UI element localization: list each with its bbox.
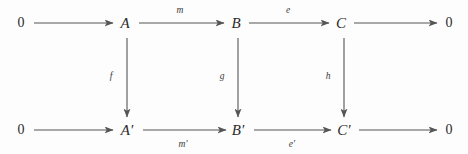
edge-label-m-prime: m′ [179, 140, 188, 150]
edge-label-f: f [110, 72, 113, 82]
arrow-lines-group [34, 23, 437, 130]
node-top-zero-right: 0 [446, 16, 453, 30]
node-bottom-a-prime: A′ [121, 123, 133, 138]
node-top-a: A [120, 16, 129, 31]
node-bottom-c-prime: C′ [337, 123, 350, 138]
edge-label-e-prime: e′ [289, 140, 295, 150]
node-top-zero-left: 0 [18, 16, 25, 30]
node-top-b: B [231, 16, 240, 31]
node-bottom-zero-right: 0 [446, 123, 453, 137]
edge-label-h: h [326, 72, 331, 82]
commutative-diagram-figure: 0 A B C 0 m e 0 A′ B′ C′ 0 m′ e′ f g h [0, 0, 468, 154]
node-bottom-b-prime: B′ [232, 123, 244, 138]
edge-label-e: e [286, 6, 290, 16]
edge-label-g: g [220, 72, 225, 82]
node-top-c: C [336, 16, 346, 31]
node-bottom-zero-left: 0 [18, 123, 25, 137]
edge-label-m: m [177, 6, 184, 16]
